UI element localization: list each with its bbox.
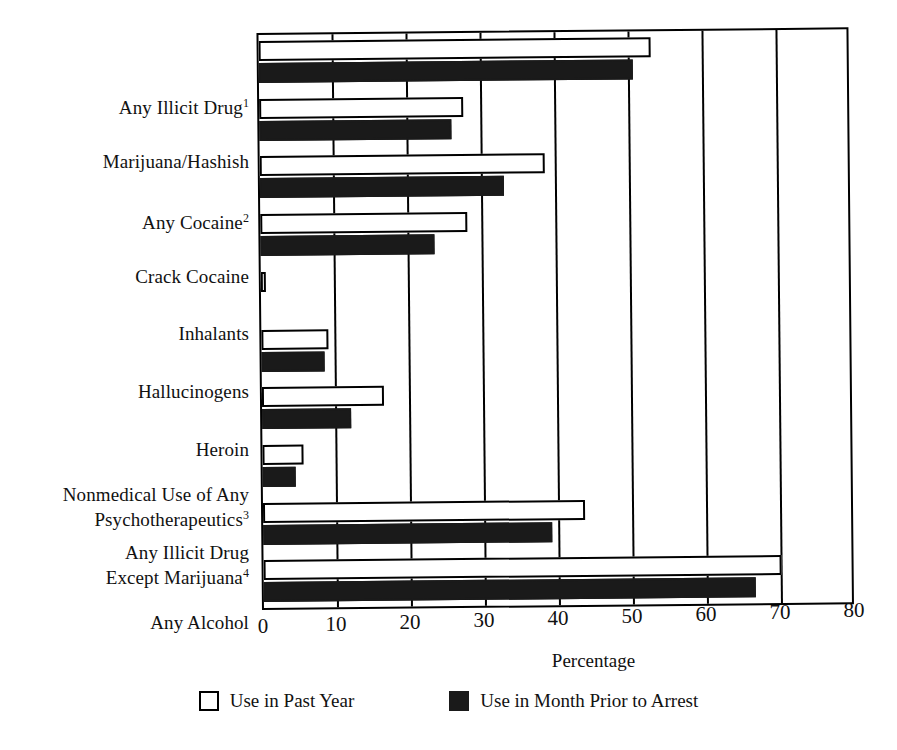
category-label-any-illicit-drug: Any Illicit Drug1	[119, 72, 249, 118]
category-label-text: Heroin	[196, 439, 249, 460]
bar-chart: Any Illicit Drug1 Marijuana/Hashish Any …	[0, 0, 897, 750]
bar-past-year	[262, 386, 384, 407]
category-label-text: Any Illicit DrugExcept Marijuana4	[106, 542, 249, 588]
chart-legend: Use in Past Year Use in Month Prior to A…	[0, 690, 897, 712]
category-label-any-alcohol: Any Alcohol	[150, 591, 249, 633]
category-label-marijuana-hashish: Marijuana/Hashish	[103, 130, 249, 172]
x-tick-50: 50	[612, 604, 652, 629]
bar-past-year	[259, 97, 463, 119]
bar-month-prior-to-arrest	[262, 408, 351, 429]
gridline-50	[627, 31, 635, 604]
category-label-inhalants: Inhalants	[178, 302, 249, 344]
category-label-text: Any Illicit Drug1	[119, 97, 249, 118]
bar-past-year	[261, 272, 266, 292]
plot-area	[256, 27, 854, 610]
bar-month-prior-to-arrest	[259, 119, 452, 141]
bar-past-year	[264, 555, 782, 580]
category-label-text: Any Alcohol	[150, 612, 249, 633]
x-tick-70: 70	[760, 600, 800, 625]
bar-month-prior-to-arrest	[259, 59, 633, 83]
category-label-heroin: Heroin	[196, 418, 249, 460]
legend-item-month-prior-to-arrest: Use in Month Prior to Arrest	[449, 690, 698, 712]
x-tick-0: 0	[243, 614, 283, 639]
category-label-text: Marijuana/Hashish	[103, 151, 249, 172]
x-tick-20: 20	[390, 610, 430, 635]
legend-label: Use in Past Year	[230, 690, 355, 712]
category-label-text: Crack Cocaine	[135, 266, 249, 287]
gridline-70	[775, 30, 783, 603]
bar-month-prior-to-arrest	[264, 578, 756, 603]
bar-past-year	[263, 499, 585, 522]
x-axis-title: Percentage	[0, 650, 897, 672]
bar-past-year	[259, 37, 651, 61]
legend-label: Use in Month Prior to Arrest	[480, 690, 698, 712]
bar-month-prior-to-arrest	[260, 176, 504, 198]
gridline-60	[701, 31, 709, 604]
category-label-any-illicit-drug-except-marijuana: Any Illicit DrugExcept Marijuana4	[106, 521, 249, 588]
category-label-text: Any Cocaine2	[142, 212, 249, 233]
x-tick-60: 60	[686, 602, 726, 627]
category-label-text: Hallucinogens	[138, 381, 249, 402]
x-tick-80: 80	[834, 598, 874, 623]
legend-swatch-filled-icon	[449, 691, 469, 711]
bar-month-prior-to-arrest	[260, 234, 434, 256]
legend-item-past-year: Use in Past Year	[199, 690, 355, 712]
x-tick-30: 30	[464, 608, 504, 633]
bar-month-prior-to-arrest	[262, 351, 325, 372]
category-label-hallucinogens: Hallucinogens	[138, 360, 249, 402]
category-label-any-cocaine: Any Cocaine2	[142, 187, 249, 233]
category-label-crack-cocaine: Crack Cocaine	[135, 245, 249, 287]
bar-month-prior-to-arrest	[263, 522, 552, 545]
category-label-text: Inhalants	[178, 323, 249, 344]
legend-swatch-open-icon	[199, 691, 219, 711]
bar-past-year	[260, 212, 467, 234]
x-tick-40: 40	[538, 606, 578, 631]
bar-past-year	[262, 444, 303, 464]
bar-past-year	[261, 329, 328, 350]
x-tick-10: 10	[316, 612, 356, 637]
bar-past-year	[260, 154, 545, 177]
bar-month-prior-to-arrest	[263, 467, 296, 487]
